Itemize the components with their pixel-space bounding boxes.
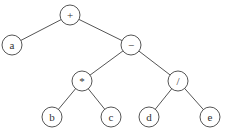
tree-node-div: / <box>168 71 188 91</box>
tree-node-plus: + <box>60 5 80 25</box>
tree-node-a: a <box>2 35 22 55</box>
nodes: +a−*/bcde <box>2 5 220 127</box>
node-label: c <box>109 111 114 123</box>
node-label: + <box>67 9 73 21</box>
node-label: a <box>10 39 15 51</box>
edges <box>12 15 210 117</box>
node-label: − <box>128 39 134 51</box>
expression-tree-diagram: +a−*/bcde <box>0 0 225 137</box>
node-label: * <box>79 75 85 87</box>
node-label: e <box>208 111 213 123</box>
tree-node-minus: − <box>121 35 141 55</box>
tree-node-mul: * <box>72 71 92 91</box>
tree-node-c: c <box>101 107 121 127</box>
node-label: b <box>49 111 55 123</box>
node-label: d <box>146 111 152 123</box>
tree-node-e: e <box>200 107 220 127</box>
tree-node-d: d <box>139 107 159 127</box>
tree-node-b: b <box>42 107 62 127</box>
